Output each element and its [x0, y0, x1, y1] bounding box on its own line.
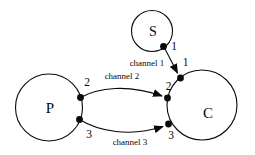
- node-P-label: P: [46, 100, 54, 116]
- channel-3-connector: [80, 120, 164, 133]
- port-dot-P-2: [77, 94, 84, 101]
- process-channel-diagram: P S C 1 1 2 2 3 3 channel 1 channel 2 ch…: [0, 0, 255, 155]
- diagram-canvas: P S C 1 1 2 2 3 3 channel 1 channel 2 ch…: [0, 0, 255, 155]
- port-dot-C-2: [164, 95, 171, 102]
- channel-2-connector: [81, 88, 163, 97]
- port-label-P-3: 3: [86, 128, 92, 140]
- port-label-C-1: 1: [183, 56, 189, 68]
- port-dot-S-1: [160, 43, 167, 50]
- channel-1-label: channel 1: [130, 58, 165, 68]
- channel-2-label: channel 2: [105, 71, 140, 81]
- port-dot-P-3: [76, 116, 83, 123]
- port-label-S-1: 1: [171, 40, 177, 52]
- node-S-label: S: [149, 24, 157, 39]
- port-dot-C-1: [177, 75, 184, 82]
- port-label-C-3: 3: [168, 129, 174, 141]
- node-C-label: C: [203, 105, 213, 121]
- port-label-C-2: 2: [166, 80, 172, 92]
- port-dot-C-3: [165, 121, 172, 128]
- channel-3-label: channel 3: [113, 137, 148, 147]
- port-label-P-2: 2: [84, 76, 90, 88]
